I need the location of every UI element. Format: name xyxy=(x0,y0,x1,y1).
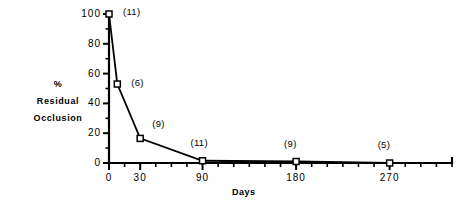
y-tick-label-40: 40 xyxy=(63,97,101,108)
point-annotation-3: (11) xyxy=(191,137,208,148)
x-tick-label-30: 30 xyxy=(115,172,165,183)
chart-container: % Residual Occlusion Days 020406080100 0… xyxy=(0,0,463,209)
x-tick-label-270: 270 xyxy=(365,172,415,183)
y-tick-label-0: 0 xyxy=(63,157,101,168)
point-annotation-0: (11) xyxy=(123,6,140,17)
x-tick-label-180: 180 xyxy=(271,172,321,183)
point-annotation-1: (6) xyxy=(131,77,144,88)
x-tick-label-90: 90 xyxy=(178,172,228,183)
y-tick-label-80: 80 xyxy=(63,38,101,49)
y-tick-label-60: 60 xyxy=(63,68,101,79)
point-annotation-2: (9) xyxy=(152,118,165,129)
y-tick-label-100: 100 xyxy=(63,8,101,19)
y-tick-label-20: 20 xyxy=(63,127,101,138)
point-annotation-5: (5) xyxy=(378,139,391,150)
point-annotation-4: (9) xyxy=(284,138,297,149)
